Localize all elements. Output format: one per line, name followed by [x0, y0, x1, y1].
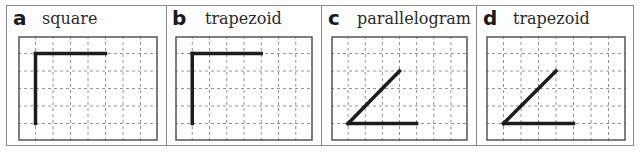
- panel-letter: c: [328, 6, 340, 30]
- shape-side: [348, 71, 399, 124]
- panel-letter: a: [13, 6, 27, 30]
- panel-divider: [166, 5, 167, 146]
- panel-divider: [321, 5, 322, 146]
- shape-name: trapezoid: [513, 8, 590, 30]
- shape-side: [504, 71, 557, 124]
- panel-letter: b: [172, 6, 186, 30]
- dot-grid: [486, 36, 626, 141]
- dot-grid: [175, 36, 313, 141]
- shape-name: trapezoid: [205, 8, 282, 30]
- shape-name: parallelogram: [357, 8, 471, 30]
- dot-grid: [18, 36, 158, 141]
- dot-grid: [331, 36, 468, 141]
- shape-name: square: [42, 8, 97, 30]
- panel-divider: [476, 5, 477, 146]
- panel-letter: d: [483, 6, 497, 30]
